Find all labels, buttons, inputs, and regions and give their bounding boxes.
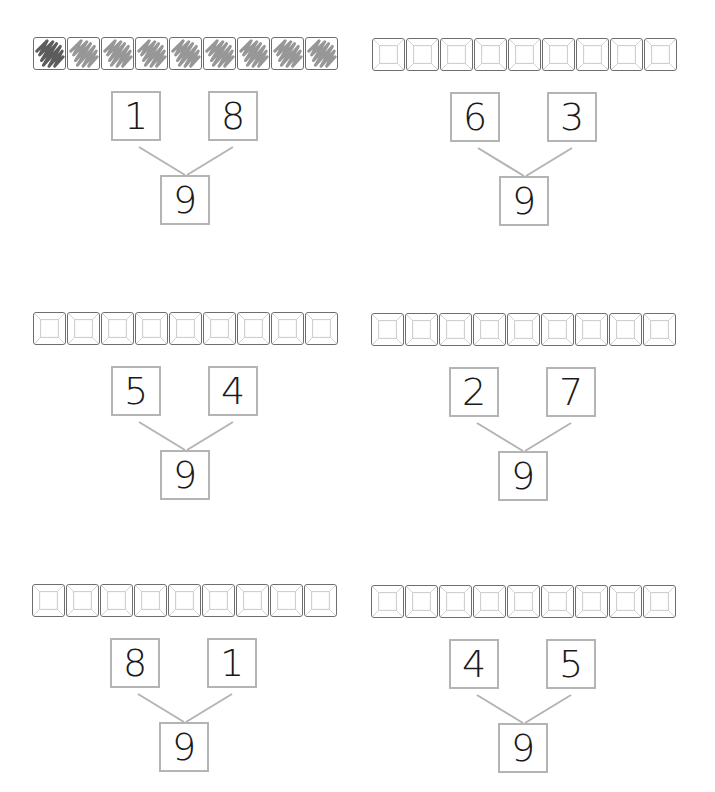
- tile-empty[interactable]: [100, 584, 133, 617]
- tile-strip: [33, 312, 338, 345]
- tile-shaded-light[interactable]: [67, 37, 100, 70]
- part-box-right: 8: [208, 91, 258, 141]
- part-box-right: 3: [547, 92, 597, 142]
- tile-empty[interactable]: [406, 38, 439, 71]
- tile-empty[interactable]: [271, 312, 304, 345]
- tile-empty[interactable]: [101, 312, 134, 345]
- tile-empty[interactable]: [203, 312, 236, 345]
- part-box-left: 8: [110, 638, 160, 688]
- tile-strip: [32, 584, 337, 617]
- tile-empty[interactable]: [372, 38, 405, 71]
- part-box-left: 2: [449, 367, 499, 417]
- tile-empty[interactable]: [576, 38, 609, 71]
- part-box-right: 1: [207, 638, 257, 688]
- tile-shaded-light[interactable]: [305, 37, 338, 70]
- tile-empty[interactable]: [439, 585, 472, 618]
- number-bond-panel: 819: [32, 584, 342, 792]
- part-box-right: 5: [546, 639, 596, 689]
- tile-empty[interactable]: [168, 584, 201, 617]
- tile-strip: [372, 38, 677, 71]
- tile-strip: [371, 313, 676, 346]
- number-bond-panel: 549: [33, 312, 343, 532]
- part-box-right: 4: [208, 366, 258, 416]
- part-box-left: 4: [449, 639, 499, 689]
- tile-empty[interactable]: [135, 312, 168, 345]
- tile-empty[interactable]: [305, 312, 338, 345]
- tile-empty[interactable]: [32, 584, 65, 617]
- number-bond-panel: 459: [371, 585, 681, 792]
- tile-empty[interactable]: [609, 313, 642, 346]
- tile-empty[interactable]: [371, 585, 404, 618]
- tile-empty[interactable]: [507, 585, 540, 618]
- tile-strip: [371, 585, 676, 618]
- tile-empty[interactable]: [202, 584, 235, 617]
- tile-shaded-light[interactable]: [237, 37, 270, 70]
- tile-empty[interactable]: [474, 38, 507, 71]
- whole-box: 9: [160, 175, 210, 225]
- tile-empty[interactable]: [405, 585, 438, 618]
- tile-empty[interactable]: [643, 585, 676, 618]
- tile-empty[interactable]: [405, 313, 438, 346]
- tile-empty[interactable]: [541, 313, 574, 346]
- tile-shaded-light[interactable]: [169, 37, 202, 70]
- tile-empty[interactable]: [439, 313, 472, 346]
- part-box-right: 7: [546, 367, 596, 417]
- part-box-left: 6: [450, 92, 500, 142]
- tile-empty[interactable]: [66, 584, 99, 617]
- tile-empty[interactable]: [609, 585, 642, 618]
- tile-shaded-light[interactable]: [271, 37, 304, 70]
- tile-empty[interactable]: [541, 585, 574, 618]
- tile-empty[interactable]: [508, 38, 541, 71]
- tile-empty[interactable]: [575, 313, 608, 346]
- tile-empty[interactable]: [542, 38, 575, 71]
- tile-shaded-dark[interactable]: [33, 37, 66, 70]
- part-box-left: 5: [111, 366, 161, 416]
- tile-shaded-light[interactable]: [101, 37, 134, 70]
- tile-empty[interactable]: [507, 313, 540, 346]
- number-bond-panel: 639: [372, 38, 682, 258]
- tile-empty[interactable]: [67, 312, 100, 345]
- whole-box: 9: [498, 451, 548, 501]
- whole-box: 9: [159, 722, 209, 772]
- tile-empty[interactable]: [236, 584, 269, 617]
- tile-strip: [33, 37, 338, 70]
- tile-empty[interactable]: [473, 585, 506, 618]
- number-bond-panel: 279: [371, 313, 681, 533]
- number-bond-panel: 189: [33, 37, 343, 257]
- tile-empty[interactable]: [575, 585, 608, 618]
- tile-empty[interactable]: [371, 313, 404, 346]
- whole-box: 9: [160, 450, 210, 500]
- tile-shaded-light[interactable]: [203, 37, 236, 70]
- tile-empty[interactable]: [644, 38, 677, 71]
- tile-empty[interactable]: [643, 313, 676, 346]
- tile-empty[interactable]: [473, 313, 506, 346]
- tile-empty[interactable]: [304, 584, 337, 617]
- tile-empty[interactable]: [610, 38, 643, 71]
- tile-shaded-light[interactable]: [135, 37, 168, 70]
- tile-empty[interactable]: [33, 312, 66, 345]
- part-box-left: 1: [111, 91, 161, 141]
- tile-empty[interactable]: [440, 38, 473, 71]
- tile-empty[interactable]: [134, 584, 167, 617]
- whole-box: 9: [499, 176, 549, 226]
- tile-empty[interactable]: [169, 312, 202, 345]
- tile-empty[interactable]: [237, 312, 270, 345]
- tile-empty[interactable]: [270, 584, 303, 617]
- whole-box: 9: [498, 723, 548, 773]
